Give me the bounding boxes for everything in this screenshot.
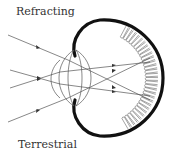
eye-wall	[74, 20, 163, 136]
eye-diagram	[0, 0, 172, 155]
lens	[51, 50, 91, 106]
light-rays	[8, 35, 150, 122]
